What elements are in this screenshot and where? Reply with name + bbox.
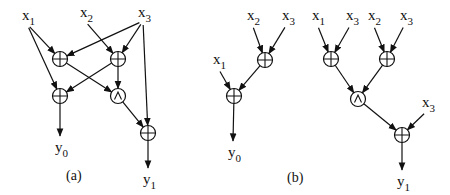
wire-b_x3c-to-b_g4 [390,28,403,53]
input-label: x3 [422,94,436,114]
wire-a_g4-to-a_g5 [123,102,144,127]
logic-circuit-figure: x1x2x3y0y1(a)x1x2x3x1x3x2x3x3y0y1(b) [0,0,450,195]
wire-b_g3-to-b_g5 [335,65,354,93]
xor-gate [324,52,339,67]
wire-b_g1-to-b_g2 [239,66,260,91]
wire-b_x1a-to-b_g2 [220,71,230,89]
input-label: x2 [368,7,381,27]
wire-a_x3-to-a_g1 [67,23,140,56]
wire-b_x2a-to-b_g1 [253,28,262,53]
wire-b_x2b-to-b_g4 [374,28,384,52]
xor-gate [395,128,410,143]
input-label: x3 [346,7,360,27]
wire-b_x3d-to-b_g6 [407,114,424,130]
xor-gate [227,89,242,104]
wire-b_x3b-to-b_g3 [335,27,349,52]
input-label: x1 [22,7,35,27]
wire-b_x1b-to-b_g3 [318,28,328,52]
input-label: x2 [247,7,260,27]
xor-gate [141,126,156,141]
input-label: x3 [138,4,152,24]
panel-caption-a: (a) [66,168,82,184]
input-label: x1 [312,7,325,27]
wire-b_g2-to-b_y0 [233,103,234,141]
wire-b_x3a-to-b_g1 [269,27,285,53]
xor-gate [258,53,273,68]
xor-gate [53,52,68,67]
wire-a_x2-to-a_g2 [88,24,113,53]
input-label: x1 [213,51,226,71]
input-label: x3 [400,7,414,27]
panel-caption-b: (b) [287,170,304,186]
wire-b_g5-to-b_g6 [364,104,396,131]
xor-gate [53,89,68,104]
output-label: y0 [55,139,69,159]
output-label: y0 [228,144,242,164]
input-label: x3 [282,7,296,27]
output-label: y1 [397,173,410,193]
wire-a_x1-to-a_g1 [30,27,55,54]
input-label: x2 [80,4,93,24]
xor-gate [111,52,126,67]
output-label: y1 [143,171,156,191]
circuit-diagram: x1x2x3y0y1(a)x1x2x3x1x3x2x3x3y0y1(b) [0,0,450,195]
xor-gate [380,52,395,67]
wire-b_g4-to-b_g5 [362,65,382,93]
wire-a_x3-to-a_g2 [122,24,141,52]
wire-a_x3-to-a_g5 [143,25,147,126]
and-gate [111,89,126,104]
and-gate [351,92,366,107]
gates [53,52,410,143]
